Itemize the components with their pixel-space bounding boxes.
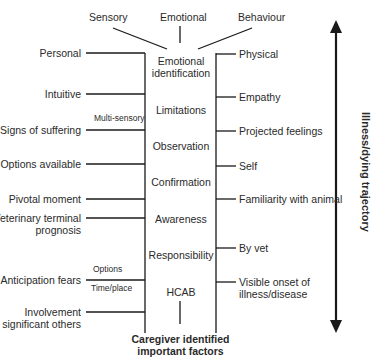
arrow-down-icon bbox=[330, 320, 342, 333]
arrow-up-icon bbox=[330, 20, 342, 33]
center-emotional-line1: Emotional bbox=[146, 55, 216, 67]
center-limitations: Limitations bbox=[146, 104, 216, 116]
left-factor-options-available: Options available bbox=[0, 158, 81, 170]
footer-line2: important factors bbox=[130, 345, 231, 357]
annotation-options: Options bbox=[93, 264, 122, 274]
right-factor-projected-feelings: Projected feelings bbox=[239, 125, 322, 137]
behaviour-connector bbox=[198, 28, 252, 49]
center-awareness: Awareness bbox=[146, 213, 216, 225]
left-factor-veterinary-terminal-prognosis: Veterinary terminal prognosis bbox=[0, 212, 81, 236]
right-factor-by-vet: By vet bbox=[239, 242, 268, 254]
category-emotional: Emotional bbox=[160, 11, 207, 23]
annotation-multi-sensory: Multi-sensory bbox=[94, 113, 145, 123]
center-emotional-line2: identification bbox=[146, 67, 216, 79]
right-factor-self: Self bbox=[239, 160, 257, 172]
visible-onset-line1: Visible onset of bbox=[239, 276, 310, 288]
footer-line1: Caregiver identified bbox=[130, 333, 231, 345]
center-responsibility: Responsibility bbox=[146, 249, 216, 261]
category-sensory: Sensory bbox=[89, 11, 128, 23]
center-observation: Observation bbox=[146, 140, 216, 152]
left-factor-signs-of-suffering: Signs of suffering bbox=[0, 124, 81, 136]
involvement-line1: Involvement bbox=[0, 306, 81, 318]
left-factor-personal: Personal bbox=[40, 47, 81, 59]
category-behaviour: Behaviour bbox=[238, 11, 285, 23]
left-factor-anticipation-fears: Anticipation fears bbox=[0, 274, 81, 286]
center-hcab: HCAB bbox=[146, 286, 216, 298]
left-factor-involvement-of-significant-others: Involvement of significant others bbox=[0, 306, 81, 330]
annotation-time-place: Time/place bbox=[91, 283, 132, 293]
trajectory-label: Illness/dying trajectory bbox=[360, 112, 372, 232]
footer-caption: Caregiver identified important factors bbox=[130, 333, 231, 357]
visible-onset-line2: illness/disease bbox=[239, 288, 310, 300]
right-factor-empathy: Empathy bbox=[239, 91, 280, 103]
center-emotional-identification: Emotional identification bbox=[146, 55, 216, 79]
trajectory-arrow bbox=[330, 20, 342, 333]
left-factor-pivotal-moment: Pivotal moment bbox=[9, 193, 81, 205]
center-confirmation: Confirmation bbox=[146, 176, 216, 188]
right-factor-familiarity-with-animal: Familiarity with animal bbox=[239, 193, 342, 205]
sensory-connector bbox=[113, 28, 167, 49]
vet-prognosis-line2: prognosis bbox=[0, 224, 81, 236]
right-factor-visible-onset: Visible onset of illness/disease bbox=[239, 276, 310, 300]
right-factor-physical: Physical bbox=[239, 48, 278, 60]
vet-prognosis-line1: Veterinary terminal bbox=[0, 212, 81, 224]
involvement-line2: of significant others bbox=[0, 318, 81, 330]
left-factor-intuitive: Intuitive bbox=[45, 88, 81, 100]
